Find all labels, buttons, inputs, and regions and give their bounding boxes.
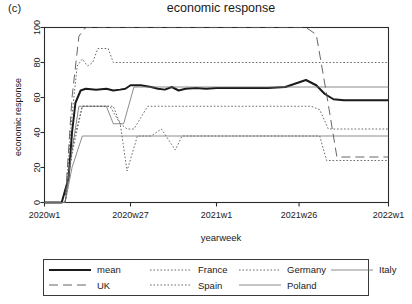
series-line-poland <box>45 136 389 203</box>
legend-swatch-germany <box>238 266 282 274</box>
legend-swatch-mean <box>48 266 92 274</box>
legend-item-poland[interactable]: Poland <box>238 281 330 291</box>
chart-figure: (c) economic response economic response … <box>0 0 412 304</box>
series-line-uk <box>45 28 389 203</box>
x-tick-label: 2021w26 <box>281 210 318 220</box>
legend-item-spain[interactable]: Spain <box>149 281 238 291</box>
plot-area: 020406080100 2020w12020w272021w12021w262… <box>0 0 412 250</box>
series-line-mean <box>45 80 389 203</box>
series-line-italy <box>45 87 389 203</box>
legend-swatch-poland <box>238 281 282 289</box>
x-tick-label: 2022w1 <box>373 210 405 220</box>
x-tick-label: 2020w1 <box>29 210 61 220</box>
legend-label-mean: mean <box>97 265 121 275</box>
legend-item-uk[interactable]: UK <box>48 281 149 291</box>
plot-frame <box>45 28 389 203</box>
y-tick-label: 60 <box>32 92 42 102</box>
series-group <box>45 28 389 203</box>
legend-label-poland: Poland <box>287 281 317 291</box>
y-tick-group: 020406080100 <box>32 20 45 205</box>
legend-swatch-italy <box>330 266 374 274</box>
legend-swatch-spain <box>149 281 193 289</box>
x-tick-label: 2021w1 <box>201 210 233 220</box>
legend-label-italy: Italy <box>379 265 396 275</box>
series-line-france <box>45 49 389 203</box>
legend-label-spain: Spain <box>198 281 222 291</box>
y-tick-label: 80 <box>32 57 42 67</box>
legend-item-mean[interactable]: mean <box>48 265 149 275</box>
legend-item-germany[interactable]: Germany <box>238 265 330 275</box>
legend-label-france: France <box>198 265 228 275</box>
legend-swatch-uk <box>48 281 92 289</box>
x-tick-label: 2020w27 <box>112 210 149 220</box>
x-tick-group: 2020w12020w272021w12021w262022w1 <box>29 203 405 220</box>
legend: meanFranceGermanyItalyUKSpainPoland <box>43 259 369 296</box>
legend-label-germany: Germany <box>287 265 326 275</box>
y-tick-label: 0 <box>32 200 42 205</box>
legend-swatch-france <box>149 266 193 274</box>
legend-item-france[interactable]: France <box>149 265 238 275</box>
legend-item-italy[interactable]: Italy <box>330 265 374 275</box>
legend-label-uk: UK <box>97 281 110 291</box>
y-tick-label: 100 <box>32 20 42 35</box>
y-tick-label: 20 <box>32 162 42 172</box>
y-tick-label: 40 <box>32 127 42 137</box>
